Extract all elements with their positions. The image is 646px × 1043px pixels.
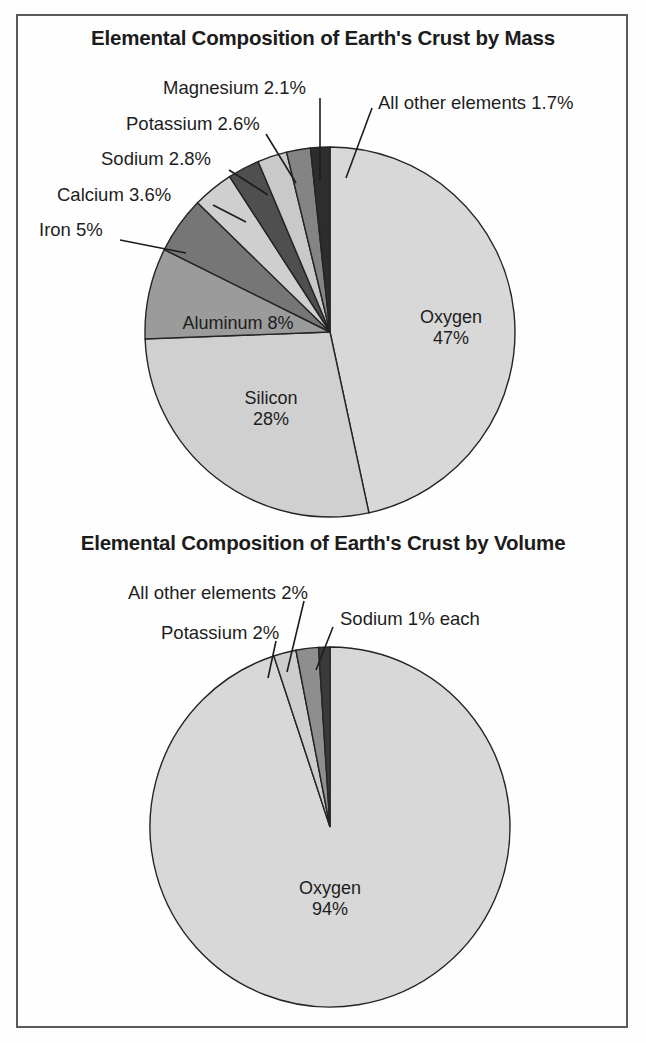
callout-all-other-elements-vol: All other elements 2%	[128, 582, 308, 604]
callout-calcium: Calcium 3.6%	[57, 184, 171, 206]
callout-iron: Iron 5%	[39, 219, 103, 241]
callout-magnesium: Magnesium 2.1%	[163, 77, 306, 99]
callout-sodium-vol: Sodium 1% each	[340, 608, 480, 630]
callout-all-other-elements: All other elements 1.7%	[378, 92, 573, 114]
figure-canvas: Elemental Composition of Earth's Crust b…	[0, 0, 646, 1043]
label-oxygen-name: Oxygen	[396, 307, 506, 328]
label-silicon: Silicon 28%	[216, 388, 326, 429]
label-oxygen-vol-name: Oxygen	[275, 878, 385, 899]
callout-potassium: Potassium 2.6%	[126, 113, 260, 135]
label-silicon-value: 28%	[216, 409, 326, 430]
chart-title-mass: Elemental Composition of Earth's Crust b…	[0, 26, 646, 50]
chart-title-volume: Elemental Composition of Earth's Crust b…	[0, 531, 646, 555]
label-silicon-name: Silicon	[216, 388, 326, 409]
callout-sodium: Sodium 2.8%	[101, 148, 211, 170]
label-oxygen-vol-value: 94%	[275, 899, 385, 920]
label-aluminum: Aluminum 8%	[158, 313, 318, 334]
label-oxygen-vol: Oxygen 94%	[275, 878, 385, 919]
label-oxygen: Oxygen 47%	[396, 307, 506, 348]
callout-potassium-vol: Potassium 2%	[161, 622, 279, 644]
label-oxygen-value: 47%	[396, 328, 506, 349]
